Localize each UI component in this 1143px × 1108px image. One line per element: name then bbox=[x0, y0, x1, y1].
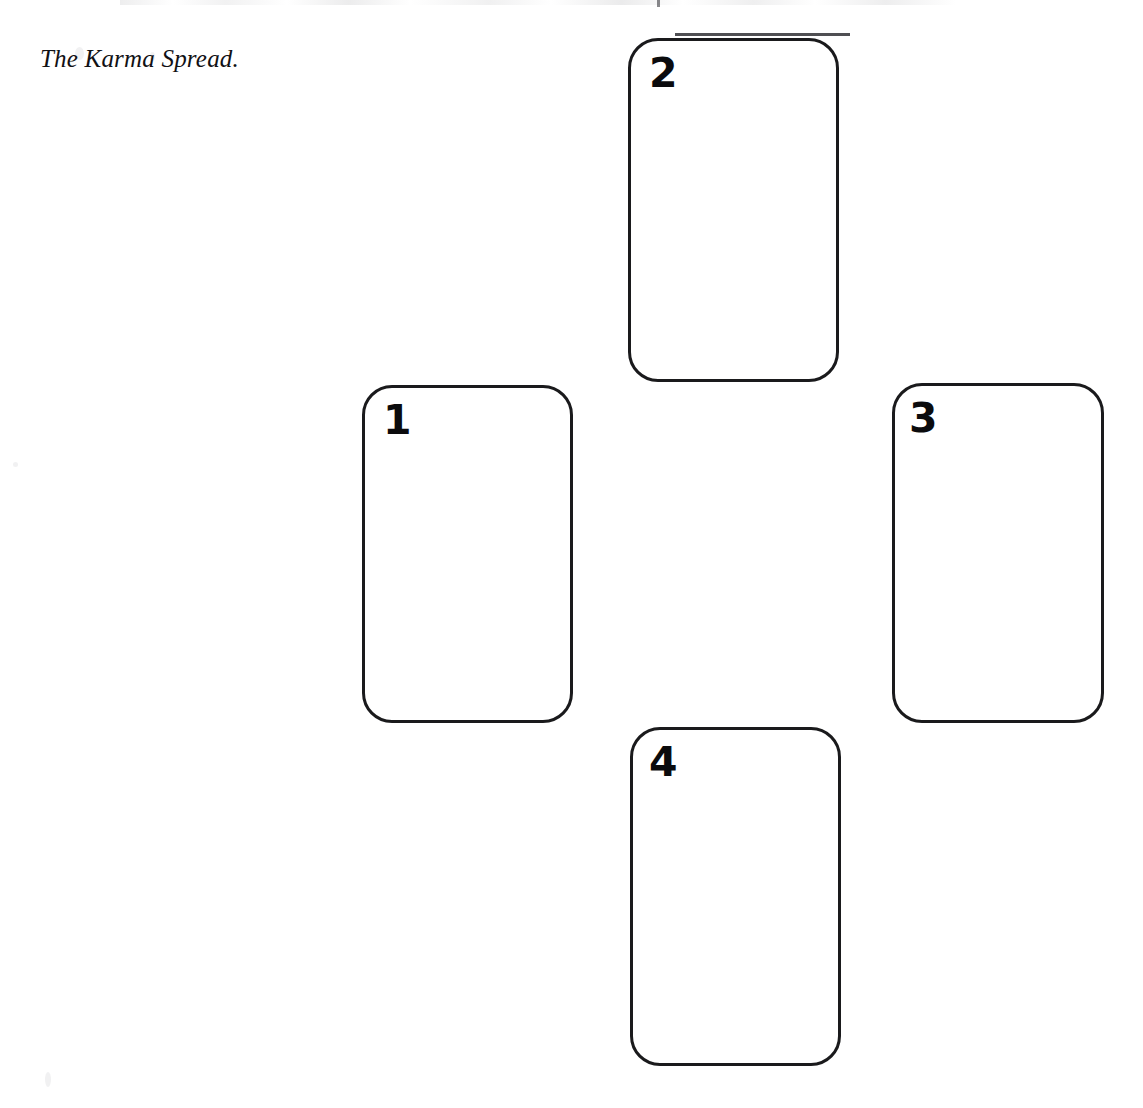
spread-card-4[interactable]: 4 bbox=[630, 727, 841, 1066]
scan-artifact-rule bbox=[675, 33, 850, 36]
scan-speck bbox=[13, 462, 18, 467]
spread-caption: The Karma Spread. bbox=[40, 44, 239, 74]
card-number-label: 1 bbox=[383, 396, 411, 444]
card-number-label: 4 bbox=[649, 738, 677, 786]
spread-card-2[interactable]: 2 bbox=[628, 38, 839, 382]
scan-artifact-top-edge bbox=[120, 0, 1000, 5]
scan-speck bbox=[45, 1072, 51, 1087]
scan-artifact-tick-mark bbox=[657, 0, 660, 7]
spread-card-1[interactable]: 1 bbox=[362, 385, 573, 723]
card-number-label: 2 bbox=[649, 49, 677, 97]
card-number-label: 3 bbox=[909, 394, 937, 442]
spread-card-3[interactable]: 3 bbox=[892, 383, 1104, 723]
page-canvas: The Karma Spread. 1 2 3 4 bbox=[0, 0, 1143, 1108]
